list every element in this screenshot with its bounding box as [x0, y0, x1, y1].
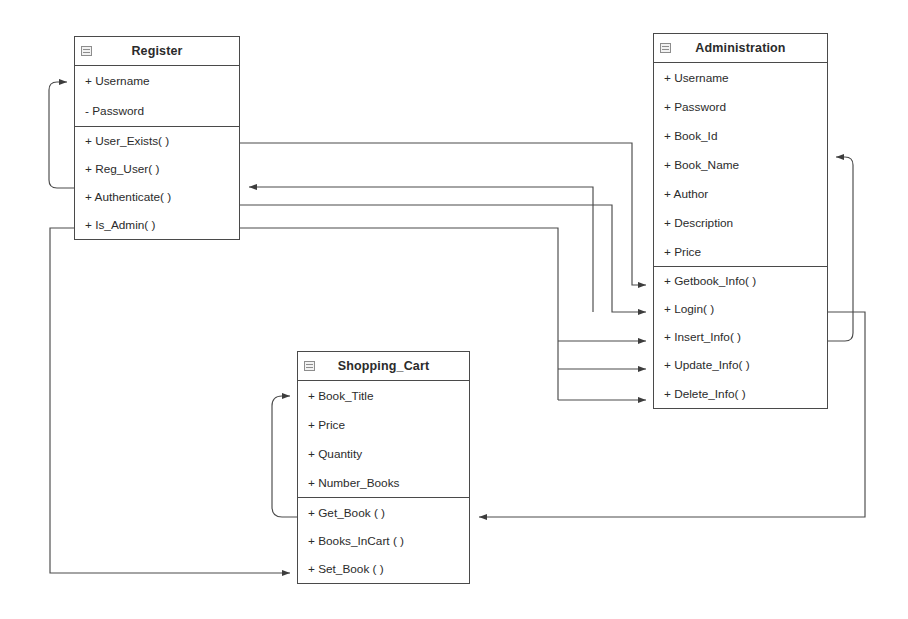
uml-class-shopping-cart[interactable]: Shopping_Cart + Book_Title + Price + Qua…: [297, 351, 470, 584]
class-title: Shopping_Cart: [338, 359, 430, 373]
diagram-canvas: Register + Username - Password + User_Ex…: [0, 0, 908, 619]
method-row: + Update_Info( ): [654, 351, 827, 379]
class-marker-icon: [304, 361, 315, 371]
method-row: + User_Exists( ): [75, 127, 239, 155]
method-row: + Reg_User( ): [75, 155, 239, 183]
attribute-row: + Book_Title: [298, 381, 469, 410]
attributes-compartment-administration: + Username + Password + Book_Id + Book_N…: [654, 63, 827, 267]
attribute-row: + Book_Id: [654, 121, 827, 150]
method-row: + Books_InCart ( ): [298, 527, 469, 555]
connector-getbook-to-booktitle: [272, 396, 297, 517]
attributes-compartment-shopping-cart: + Book_Title + Price + Quantity + Number…: [298, 381, 469, 498]
attribute-row: + Book_Name: [654, 150, 827, 179]
class-header-shopping-cart: Shopping_Cart: [298, 352, 469, 381]
methods-compartment-shopping-cart: + Get_Book ( ) + Books_InCart ( ) + Set_…: [298, 498, 469, 583]
class-title: Register: [131, 44, 182, 58]
attribute-row: + Quantity: [298, 439, 469, 468]
attributes-compartment-register: + Username - Password: [75, 66, 239, 127]
attribute-row: + Price: [654, 237, 827, 266]
attribute-row: + Username: [654, 63, 827, 92]
methods-compartment-administration: + Getbook_Info( ) + Login( ) + Insert_In…: [654, 267, 827, 408]
attribute-row: + Description: [654, 208, 827, 237]
connector-userexists-to-getbookinfo: [240, 143, 646, 285]
method-row: + Delete_Info( ): [654, 379, 827, 408]
methods-compartment-register: + User_Exists( ) + Reg_User( ) + Authent…: [75, 127, 239, 239]
attribute-row: + Price: [298, 410, 469, 439]
attribute-row: + Number_Books: [298, 468, 469, 497]
class-header-register: Register: [75, 37, 239, 66]
method-row: + Authenticate( ): [75, 183, 239, 211]
uml-class-register[interactable]: Register + Username - Password + User_Ex…: [74, 36, 240, 240]
connector-reguser-to-login: [240, 205, 646, 312]
attribute-row: + Author: [654, 179, 827, 208]
method-row: + Get_Book ( ): [298, 498, 469, 527]
class-marker-icon: [660, 43, 671, 53]
method-row: + Is_Admin( ): [75, 211, 239, 239]
connector-register-authenticate-to-username: [49, 82, 74, 188]
attribute-row: + Password: [654, 92, 827, 121]
connector-isadmin-to-setbook: [50, 228, 290, 573]
attribute-row: - Password: [75, 96, 239, 126]
class-header-administration: Administration: [654, 34, 827, 63]
class-title: Administration: [695, 41, 785, 55]
attribute-row: + Username: [75, 66, 239, 96]
method-row: + Getbook_Info( ): [654, 267, 827, 295]
class-marker-icon: [81, 46, 92, 56]
method-row: + Set_Book ( ): [298, 555, 469, 583]
method-row: + Insert_Info( ): [654, 323, 827, 351]
uml-class-administration[interactable]: Administration + Username + Password + B…: [653, 33, 828, 409]
connector-admin-insertinfo-to-bookname: [828, 157, 853, 341]
method-row: + Login( ): [654, 295, 827, 323]
connector-login-to-authenticate: [249, 187, 593, 312]
